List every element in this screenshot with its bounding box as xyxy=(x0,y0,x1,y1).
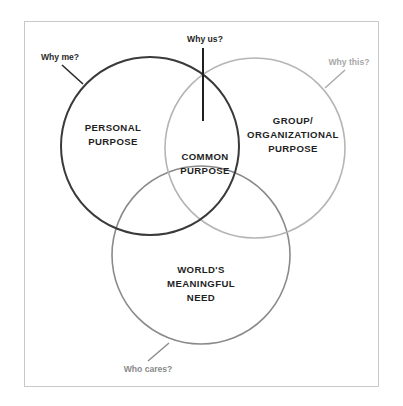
world-need-circle xyxy=(112,166,290,344)
world-need-label: WORLD'S MEANINGFUL NEED xyxy=(167,263,235,305)
common-purpose-label: COMMON PURPOSE xyxy=(180,150,230,178)
who-cares-leader-line xyxy=(148,343,169,361)
personal-purpose-label: PERSONAL PURPOSE xyxy=(85,121,142,149)
who-cares-label: Who cares? xyxy=(124,364,173,374)
why-this-label: Why this? xyxy=(328,57,369,67)
why-this-leader-line xyxy=(325,70,345,88)
group-purpose-label: GROUP/ ORGANIZATIONAL PURPOSE xyxy=(247,114,339,156)
why-us-label: Why us? xyxy=(187,34,223,44)
why-me-leader-line xyxy=(62,65,83,84)
why-me-label: Why me? xyxy=(41,52,79,62)
